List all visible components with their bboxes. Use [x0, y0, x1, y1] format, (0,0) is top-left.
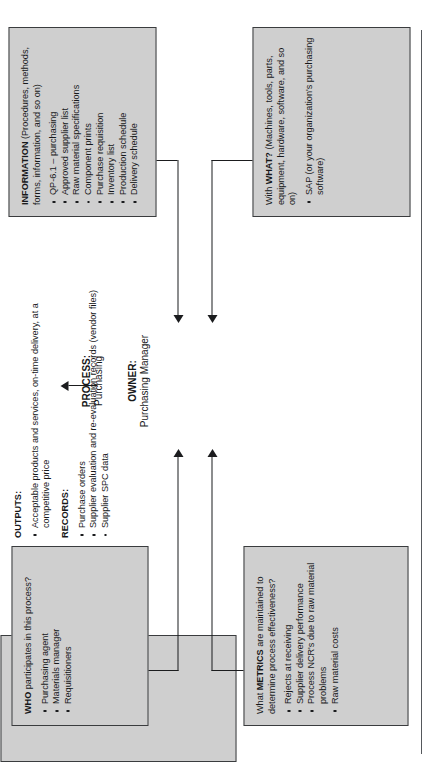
arrowhead-who-to-process	[173, 449, 183, 457]
list-item: Rejects at receiving	[282, 556, 294, 714]
connector-information-vertical	[156, 160, 177, 161]
list-item: Approved supplier list	[59, 37, 71, 205]
list-item: Materials manager	[50, 556, 62, 714]
owner-value: Purchasing Manager	[138, 0, 151, 762]
owner-label: OWNER:	[126, 0, 139, 762]
list-item: Acceptable products and services, on-tim…	[29, 288, 52, 538]
connector-metrics-horizontal	[211, 456, 212, 671]
metrics-title-pre: What	[254, 690, 264, 714]
records-heading: RECORDS:	[59, 288, 71, 538]
what-title-pre: With	[263, 184, 273, 205]
list-item: Supplier evaluation and re-evaluation re…	[87, 288, 99, 538]
metrics-box-title: What METRICS are maintained to determine…	[254, 556, 277, 714]
with-what-box: With WHAT? (Machines, tools, parts, equi…	[252, 27, 410, 217]
who-box-title: WHO participates in this process?	[22, 556, 34, 714]
list-item: Supplier SPC data	[99, 288, 111, 538]
arrowhead-metrics-to-process	[207, 449, 217, 457]
diagram-page: WHO participates in this process? Purcha…	[0, 0, 427, 762]
who-title-keyword: WHO	[22, 692, 32, 714]
information-title-keyword: INFORMATION	[19, 142, 29, 205]
outputs-records-group: OUTPUTS: Acceptable products and service…	[12, 288, 111, 538]
connector-metrics-vertical	[211, 670, 243, 671]
list-item: Inventory list	[105, 37, 117, 205]
with-what-box-list: SAP (or your organization's purchasing s…	[303, 37, 326, 205]
outputs-heading: OUTPUTS:	[12, 288, 24, 538]
list-item: Purchasing agent	[39, 556, 51, 714]
who-title-rest: participates in this process?	[22, 577, 32, 692]
connector-who-horizontal	[177, 456, 178, 671]
list-item: Raw material costs	[329, 556, 341, 714]
list-item: Process NCR's due to raw material proble…	[305, 556, 328, 714]
who-box-list: Purchasing agent Materials manager Requi…	[39, 556, 74, 714]
list-item: QP-6.1 – purchasing	[47, 37, 59, 205]
rotated-diagram-stage: WHO participates in this process? Purcha…	[0, 0, 427, 762]
connector-what-horizontal	[211, 160, 212, 315]
metrics-title-keyword: METRICS	[254, 649, 264, 690]
list-item: SAP (or your organization's purchasing s…	[303, 37, 326, 205]
metrics-box-list: Rejects at receiving Supplier delivery p…	[282, 556, 340, 714]
what-title-keyword: WHAT?	[263, 152, 273, 184]
connector-outputs-vertical	[68, 385, 97, 386]
arrowhead-information-to-process	[173, 315, 183, 323]
connector-information-horizontal	[177, 160, 178, 315]
information-box-title: INFORMATION (Procedures, methods, forms,…	[19, 37, 42, 205]
list-item: Requisitioners	[62, 556, 74, 714]
connector-what-vertical	[211, 160, 252, 161]
outputs-list: Acceptable products and services, on-tim…	[29, 288, 52, 538]
connector-who-vertical	[148, 670, 178, 671]
list-item: Supplier delivery performance	[294, 556, 306, 714]
arrowhead-process-to-outputs	[60, 381, 68, 391]
arrowhead-what-to-process	[207, 315, 217, 323]
metrics-box: What METRICS are maintained to determine…	[243, 546, 408, 726]
records-list: Purchase orders Supplier evaluation and …	[76, 288, 111, 538]
list-item: Purchase orders	[76, 288, 88, 538]
with-what-box-title: With WHAT? (Machines, tools, parts, equi…	[263, 37, 298, 205]
